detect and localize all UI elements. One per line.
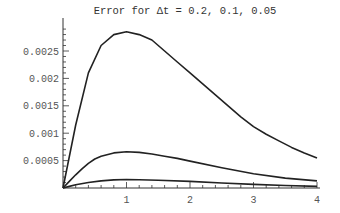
series-lines (63, 32, 317, 188)
axes: 12340.00050.0010.00150.0020.0025 (23, 18, 320, 206)
y-tick-label: 0.0005 (23, 156, 59, 167)
x-tick-label: 3 (250, 195, 256, 206)
x-tick-label: 1 (123, 195, 129, 206)
chart-title: Error for Δt = 0.2, 0.1, 0.05 (94, 5, 277, 17)
error-chart: Error for Δt = 0.2, 0.1, 0.05 12340.0005… (0, 0, 340, 213)
x-tick-label: 4 (314, 195, 320, 206)
y-tick-label: 0.001 (29, 129, 59, 140)
y-tick-label: 0.002 (29, 74, 59, 85)
y-tick-label: 0.0015 (23, 101, 59, 112)
series-line-1 (63, 32, 317, 188)
y-tick-label: 0.0025 (23, 47, 59, 58)
x-tick-label: 2 (187, 195, 193, 206)
